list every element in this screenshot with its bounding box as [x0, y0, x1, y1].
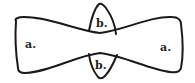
diagram-canvas: a. a. b. b.: [0, 0, 195, 83]
label-top-b: b.: [96, 17, 108, 30]
bow-tie-diagram: a. a. b. b.: [0, 0, 195, 83]
label-bottom-b: b.: [95, 59, 107, 72]
label-left-a: a.: [25, 38, 36, 51]
label-right-a: a.: [160, 41, 171, 54]
